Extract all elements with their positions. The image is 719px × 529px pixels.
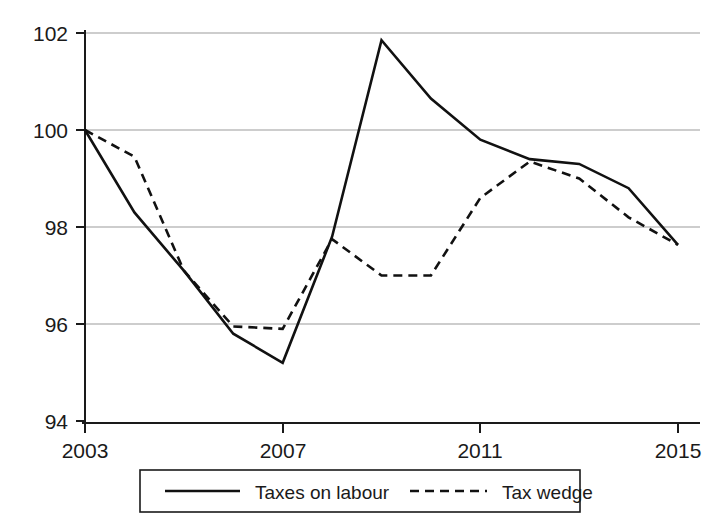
series-line-taxes-on-labour <box>85 40 678 363</box>
legend-label-tax-wedge: Tax wedge <box>502 482 593 503</box>
legend-label-taxes-on-labour: Taxes on labour <box>255 482 390 503</box>
chart-canvas: 102 100 98 96 94 2003 2007 2011 2015 Tax… <box>0 0 719 529</box>
chart-legend: Taxes on labour Tax wedge <box>140 470 593 512</box>
x-tick-label-2003: 2003 <box>62 439 109 462</box>
y-tick-marks <box>76 33 85 421</box>
y-tick-label-94: 94 <box>45 410 69 433</box>
x-tick-label-2011: 2011 <box>457 439 502 462</box>
series-line-tax-wedge <box>85 130 678 329</box>
x-tick-marks <box>85 423 678 433</box>
y-tick-label-100: 100 <box>33 119 68 142</box>
y-tick-label-102: 102 <box>33 22 68 45</box>
x-tick-label-2007: 2007 <box>260 439 307 462</box>
y-tick-label-96: 96 <box>45 313 68 336</box>
line-chart: 102 100 98 96 94 2003 2007 2011 2015 Tax… <box>0 0 719 529</box>
y-tick-label-98: 98 <box>45 216 68 239</box>
x-tick-label-2015: 2015 <box>655 439 702 462</box>
